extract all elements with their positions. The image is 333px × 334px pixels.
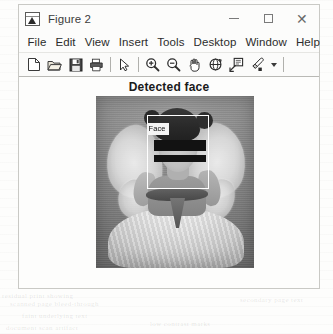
- pointer-arrow-icon: [119, 58, 130, 72]
- figure-canvas: Detected face: [19, 77, 319, 288]
- screenshot-root: scanned page bleed-through faint underly…: [0, 0, 333, 334]
- maximize-button[interactable]: [251, 5, 285, 32]
- ghost-text-line: secondary page text: [240, 296, 303, 304]
- rotate-3d-button[interactable]: [205, 55, 226, 74]
- save-figure-button[interactable]: [65, 55, 86, 74]
- minimize-icon: [229, 18, 239, 19]
- menu-item-view[interactable]: View: [80, 36, 114, 48]
- zoom-in-button[interactable]: [142, 55, 163, 74]
- menu-item-help[interactable]: Help: [291, 36, 324, 48]
- close-icon: ✕: [296, 12, 308, 26]
- data-cursor-icon: [229, 57, 244, 72]
- save-figure-icon: [69, 58, 83, 72]
- pointer-arrow-button[interactable]: [114, 55, 135, 74]
- zoom-out-button[interactable]: [163, 55, 184, 74]
- figure-window: Figure 2 ✕ File Edit View Insert Tools D…: [18, 4, 320, 289]
- menu-item-insert[interactable]: Insert: [114, 36, 152, 48]
- window-controls: ✕: [217, 5, 319, 32]
- toolbar-separator: [138, 57, 139, 72]
- zoom-in-icon: [145, 57, 160, 72]
- print-figure-button[interactable]: [86, 55, 107, 74]
- print-figure-icon: [89, 58, 104, 72]
- toolbar-separator: [110, 57, 111, 72]
- brush-dropdown-button[interactable]: [268, 55, 280, 74]
- menu-item-file[interactable]: File: [23, 36, 51, 48]
- menu-item-edit[interactable]: Edit: [51, 36, 80, 48]
- menu-item-tools[interactable]: Tools: [153, 36, 189, 48]
- ghost-text-line: low contrast marks: [150, 320, 210, 328]
- pan-hand-icon: [188, 57, 202, 72]
- detected-face-image: Face: [96, 96, 254, 268]
- menu-item-desktop[interactable]: Desktop: [189, 36, 241, 48]
- face-detection-box: Face: [147, 115, 209, 189]
- brush-button[interactable]: [247, 55, 268, 74]
- ghost-text-line: residual print showing: [2, 292, 73, 300]
- ghost-text-line: scanned page bleed-through: [10, 300, 99, 308]
- maximize-icon: [264, 14, 273, 23]
- new-figure-icon: [27, 57, 41, 72]
- open-file-icon: [47, 58, 62, 72]
- minimize-button[interactable]: [217, 5, 251, 32]
- window-title: Figure 2: [48, 13, 91, 25]
- ghost-text-line: faint underlying text: [22, 312, 88, 320]
- ghost-text-line: document scan artifact: [6, 324, 78, 332]
- matlab-figure-icon: [25, 12, 40, 26]
- pan-hand-button[interactable]: [184, 55, 205, 74]
- menu-item-window[interactable]: Window: [241, 36, 292, 48]
- menu-bar: File Edit View Insert Tools Desktop Wind…: [19, 32, 319, 52]
- title-bar: Figure 2 ✕: [19, 5, 319, 32]
- tool-bar: [19, 52, 319, 77]
- data-cursor-button[interactable]: [226, 55, 247, 74]
- open-file-button[interactable]: [44, 55, 65, 74]
- toolbar-separator: [283, 57, 284, 72]
- close-button[interactable]: ✕: [285, 5, 319, 32]
- chevron-down-icon: [271, 63, 277, 67]
- face-detection-label: Face: [147, 123, 169, 135]
- brush-icon: [250, 57, 265, 72]
- new-figure-button[interactable]: [23, 55, 44, 74]
- zoom-out-icon: [166, 57, 181, 72]
- plot-title: Detected face: [19, 80, 319, 94]
- rotate-3d-icon: [208, 57, 223, 72]
